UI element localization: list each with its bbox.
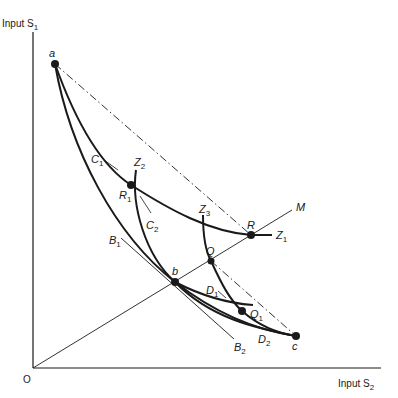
point-c (292, 332, 300, 340)
label-z3: Z3 (198, 203, 211, 218)
label-r: R (247, 219, 255, 231)
y-axis-label: Input S1 (2, 18, 39, 32)
label-z2: Z2 (133, 156, 146, 171)
curve-a-b-c (55, 64, 296, 336)
tangent-line-b1-b2 (121, 238, 234, 339)
label-z1: Z1 (275, 229, 288, 244)
label-d2: D2 (258, 333, 271, 348)
label-b: b (172, 265, 178, 277)
point-q (208, 258, 215, 265)
point-a (51, 60, 59, 68)
dashdot-line-a-r (55, 64, 251, 235)
isoquant-diagram: Input S1 Input S2 O a (0, 0, 398, 398)
label-m: M (296, 201, 306, 213)
label-a: a (49, 47, 55, 59)
label-r1: R1 (119, 189, 132, 204)
point-r (247, 231, 255, 239)
leader-c2 (140, 196, 151, 213)
label-q: Q (206, 245, 215, 257)
curve-c1-c2-z1 (55, 64, 272, 235)
label-c2: C2 (146, 219, 159, 234)
point-b (171, 278, 179, 286)
label-c1: C1 (91, 153, 104, 168)
axes (33, 32, 381, 368)
label-b1: B1 (109, 234, 121, 249)
point-q1 (238, 307, 246, 315)
label-c: c (292, 340, 298, 352)
point-r1 (127, 181, 135, 189)
curve-labels: C1 C2 Z1 Z2 Z3 B1 B2 D1 D2 M (91, 153, 306, 356)
leader-d1 (218, 291, 226, 298)
label-b2: B2 (234, 341, 246, 356)
x-axis-label: Input S2 (338, 378, 375, 392)
origin-label: O (23, 374, 31, 385)
point-labels: a b c R R1 Q Q1 (49, 47, 298, 352)
